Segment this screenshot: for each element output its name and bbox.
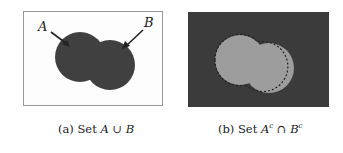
panel-set-a-union-b: A B bbox=[23, 11, 163, 106]
arrow-b-icon bbox=[126, 30, 143, 46]
circle-b bbox=[85, 40, 135, 90]
caption-b-prefix: (b) Set bbox=[218, 122, 257, 136]
caption-b-set-b: B bbox=[290, 122, 298, 136]
panel-set-complement-intersection bbox=[188, 12, 329, 107]
caption-b-complement-b: c bbox=[299, 122, 303, 130]
caption-b-intersect-op: ∩ bbox=[273, 122, 290, 136]
caption-a-prefix: (a) Set bbox=[58, 122, 97, 136]
caption-a-set-b: B bbox=[126, 122, 134, 136]
label-a: A bbox=[38, 19, 47, 34]
caption-a: (a) Set A ∪ B bbox=[58, 122, 134, 136]
caption-a-set-a: A bbox=[100, 122, 108, 136]
label-b: B bbox=[144, 15, 154, 30]
hole-circle-b bbox=[244, 43, 294, 93]
caption-a-union-op: ∪ bbox=[109, 122, 126, 136]
caption-b: (b) Set Ac ∩ Bc bbox=[218, 122, 303, 136]
venn-complement-diagram bbox=[188, 12, 329, 107]
